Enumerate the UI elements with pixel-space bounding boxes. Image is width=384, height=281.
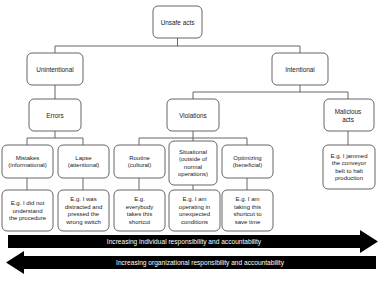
node-intentional[interactable]: Intentional [272,53,328,85]
individual-responsibility-arrow-label: Increasing individual responsibility and… [107,238,262,246]
node-violations[interactable]: Violations [167,99,219,131]
connector-root-to-level2 [55,38,300,53]
node-mistakes[interactable]: Mistakes(informational) [2,145,53,178]
node-violations-label: Violations [179,111,207,118]
node-intentional-label: Intentional [285,65,315,72]
node-unsafe-acts[interactable]: Unsafe acts [153,6,202,38]
node-unintentional[interactable]: Unintentional [27,53,83,85]
node-malicious-acts[interactable]: Maliciousacts [324,99,374,131]
node-optimizing-example-label: E.g. I amtaking thisshortcut tosave time [233,196,262,225]
node-mistakes-example[interactable]: E.g. I did notunderstandthe procedure [2,190,53,231]
node-lapse-example[interactable]: E.g. I wasdistracted andpressed thewrong… [58,190,109,231]
node-unsafe-acts-label: Unsafe acts [161,18,195,25]
connector-intentional-to-children [193,85,348,99]
node-routine[interactable]: Routine(cultural) [114,145,165,178]
unsafe-acts-diagram: Unsafe acts Unintentional Intentional Er… [0,0,384,281]
node-errors[interactable]: Errors [29,99,81,131]
node-optimizing[interactable]: Optimizing(beneficial) [222,145,273,178]
node-errors-label: Errors [46,111,63,118]
organizational-responsibility-arrow: Increasing organizational responsibility… [6,251,376,274]
node-routine-example[interactable]: E.g.everybodytakes thisshortcut [114,190,165,231]
individual-responsibility-arrow: Increasing individual responsibility and… [8,230,378,253]
node-mistakes-example-label: E.g. I did notunderstandthe procedure [9,199,47,220]
node-optimizing-label: Optimizing(beneficial) [233,154,262,168]
node-unintentional-label: Unintentional [36,65,73,72]
organizational-responsibility-arrow-label: Increasing organizational responsibility… [116,259,285,267]
connector-errors-to-children [27,131,83,145]
node-situational[interactable]: Situational(outside ofnormaloperations) [169,141,217,185]
node-situational-example-label: E.g. I amoperating inunexpectedcondition… [179,196,210,225]
node-situational-example[interactable]: E.g. I amoperating inunexpectedcondition… [169,190,220,231]
flowchart-canvas: Unsafe acts Unintentional Intentional Er… [0,0,384,281]
node-routine-label: Routine(cultural) [128,154,151,168]
node-optimizing-example[interactable]: E.g. I amtaking thisshortcut tosave time [222,190,273,231]
node-malicious-example-label: E.g. I jammedthe conveyorbelt to haltpro… [330,152,367,181]
node-malicious-example[interactable]: E.g. I jammedthe conveyorbelt to haltpro… [323,145,375,189]
node-lapse[interactable]: Lapse(attentional) [58,145,109,178]
